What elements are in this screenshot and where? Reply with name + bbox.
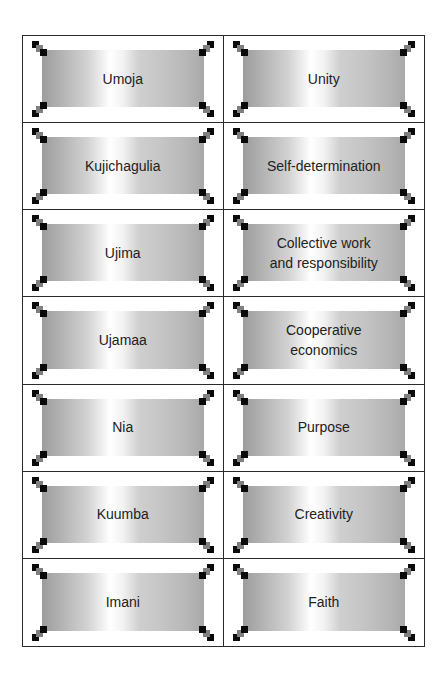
corner-ornament-icon [233,361,251,379]
corner-ornament-icon [196,186,214,204]
corner-ornament-icon [32,302,50,320]
corner-ornament-icon [196,361,214,379]
card-banner: Ujima [42,224,204,281]
corner-ornament-icon [233,186,251,204]
corner-ornament-icon [32,361,50,379]
card-grid: Umoja Unity Kujichagulia [22,35,425,647]
corner-ornament-icon [397,215,415,233]
corner-ornament-icon [32,186,50,204]
card-banner: Kujichagulia [42,137,204,194]
term-label: Kuumba [85,504,161,524]
card-term: Imani [23,559,224,646]
corner-ornament-icon [196,623,214,641]
corner-ornament-icon [233,41,251,59]
corner-ornament-icon [397,186,415,204]
corner-ornament-icon [196,535,214,553]
card-banner: Purpose [243,399,406,456]
corner-ornament-icon [233,623,251,641]
meaning-label: Self-determination [255,156,393,176]
corner-ornament-icon [196,41,214,59]
corner-ornament-icon [397,564,415,582]
term-label: Kujichagulia [73,156,173,176]
corner-ornament-icon [233,564,251,582]
corner-ornament-icon [233,302,251,320]
corner-ornament-icon [196,99,214,117]
corner-ornament-icon [397,390,415,408]
card-banner: Ujamaa [42,311,204,368]
corner-ornament-icon [196,564,214,582]
corner-ornament-icon [196,477,214,495]
corner-ornament-icon [397,361,415,379]
corner-ornament-icon [233,477,251,495]
term-label: Umoja [91,69,155,89]
card-term: Nia [23,385,224,472]
meaning-label: Cooperative economics [274,320,374,360]
card-meaning: Unity [224,36,425,123]
card-banner: Collective work and responsibility [243,224,406,281]
card-banner: Umoja [42,50,204,107]
card-banner: Faith [243,573,406,631]
corner-ornament-icon [397,448,415,466]
corner-ornament-icon [32,564,50,582]
term-label: Nia [100,417,145,437]
meaning-label: Collective work and responsibility [258,233,390,273]
corner-ornament-icon [233,215,251,233]
meaning-label: Creativity [283,504,365,524]
corner-ornament-icon [233,448,251,466]
card-term: Ujima [23,210,224,297]
corner-ornament-icon [196,302,214,320]
card-term: Umoja [23,36,224,123]
corner-ornament-icon [32,41,50,59]
corner-ornament-icon [397,99,415,117]
corner-ornament-icon [397,477,415,495]
card-meaning: Faith [224,559,425,646]
card-term: Ujamaa [23,297,224,384]
corner-ornament-icon [32,390,50,408]
corner-ornament-icon [397,41,415,59]
meaning-label: Unity [296,69,352,89]
corner-ornament-icon [233,390,251,408]
corner-ornament-icon [32,623,50,641]
corner-ornament-icon [196,128,214,146]
card-banner: Kuumba [42,486,204,543]
corner-ornament-icon [397,273,415,291]
corner-ornament-icon [32,215,50,233]
card-meaning: Collective work and responsibility [224,210,425,297]
corner-ornament-icon [233,99,251,117]
corner-ornament-icon [196,390,214,408]
corner-ornament-icon [233,535,251,553]
card-term: Kuumba [23,472,224,559]
corner-ornament-icon [32,99,50,117]
corner-ornament-icon [32,448,50,466]
corner-ornament-icon [32,477,50,495]
corner-ornament-icon [196,448,214,466]
card-meaning: Purpose [224,385,425,472]
corner-ornament-icon [32,273,50,291]
meaning-label: Purpose [286,417,362,437]
card-banner: Unity [243,50,406,107]
card-banner: Imani [42,573,204,631]
term-label: Ujamaa [87,330,159,350]
corner-ornament-icon [196,215,214,233]
meaning-label: Faith [296,592,351,612]
corner-ornament-icon [397,302,415,320]
corner-ornament-icon [397,535,415,553]
corner-ornament-icon [32,128,50,146]
card-banner: Cooperative economics [243,311,406,368]
card-meaning: Self-determination [224,123,425,210]
card-banner: Self-determination [243,137,406,194]
corner-ornament-icon [233,128,251,146]
term-label: Ujima [93,243,153,263]
term-label: Imani [94,592,152,612]
card-term: Kujichagulia [23,123,224,210]
corner-ornament-icon [233,273,251,291]
corner-ornament-icon [397,128,415,146]
corner-ornament-icon [397,623,415,641]
corner-ornament-icon [32,535,50,553]
card-meaning: Creativity [224,472,425,559]
card-banner: Nia [42,399,204,456]
corner-ornament-icon [196,273,214,291]
card-banner: Creativity [243,486,406,543]
card-meaning: Cooperative economics [224,297,425,384]
